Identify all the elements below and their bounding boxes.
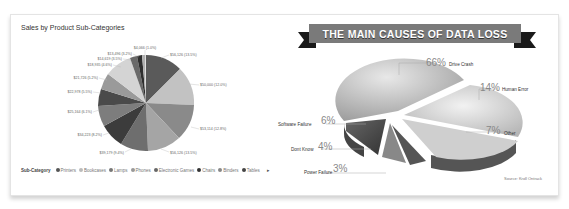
- slice-label: $25,164 (6.1%): [67, 110, 92, 114]
- legend-label: Electronic Games: [159, 168, 195, 173]
- legend-label: Printers: [61, 168, 77, 173]
- slice-label: $18,935 (4.6%): [87, 63, 112, 67]
- pct-power-failure: 3%: [333, 163, 347, 174]
- slice-label: $50,000 (12.0%): [200, 83, 227, 87]
- slice-label: $14,619 (3.5%): [97, 57, 122, 61]
- legend-swatch: [109, 168, 113, 172]
- slice-label: $56,126 (13.5%): [170, 53, 197, 57]
- infographic-title: THE MAIN CAUSES OF DATA LOSS: [309, 24, 521, 43]
- label-software-failure: Software Failure: [278, 122, 311, 127]
- pct-software-failure: 6%: [321, 115, 335, 126]
- legend-label: Bookcases: [84, 168, 106, 173]
- slice-label: $56,126 (13.5%): [170, 151, 197, 155]
- sales-pie-chart[interactable]: $56,126 (13.5%) $50,000 (12.0%) $53,114 …: [11, 15, 286, 165]
- legend-item[interactable]: Electronic Games: [154, 168, 195, 173]
- legend-item[interactable]: Printers: [56, 168, 77, 173]
- legend-label: Phones: [136, 168, 151, 173]
- pct-other: 7%: [486, 125, 500, 136]
- label-drive-crash: Drive Crash: [449, 62, 473, 67]
- legend-item[interactable]: Binders: [218, 168, 238, 173]
- legend-label: Tables: [247, 168, 260, 173]
- legend-item[interactable]: Lamps: [109, 168, 128, 173]
- legend-label: Binders: [223, 168, 238, 173]
- source-credit: Source: Kroll Ontrack: [504, 176, 542, 181]
- slice-label: $53,114 (12.8%): [200, 127, 226, 131]
- dashboard-card: Sales by Product Sub-Categories: [10, 14, 559, 196]
- slice-label: $22,978 (5.5%): [67, 90, 92, 94]
- slice-label: $13,496 (3.2%): [107, 52, 132, 56]
- slice-label: $21,726 (5.2%): [73, 76, 98, 80]
- label-other: Other: [504, 131, 516, 136]
- sales-pie-panel: Sales by Product Sub-Categories: [11, 15, 286, 195]
- legend-item[interactable]: Chairs: [197, 168, 215, 173]
- slice-label: $39,179 (9.4%): [99, 151, 124, 155]
- legend-swatch: [242, 168, 246, 172]
- label-dont-know: Dont Know: [291, 147, 313, 152]
- legend-swatch: [218, 168, 222, 172]
- legend-label: Lamps: [114, 168, 128, 173]
- pct-dont-know: 4%: [318, 141, 332, 152]
- chart-legend: Sub-Category Printers Bookcases Lamps Ph…: [21, 167, 270, 173]
- legend-swatch: [56, 168, 60, 172]
- legend-swatch: [154, 168, 158, 172]
- legend-item[interactable]: Phones: [131, 168, 151, 173]
- pct-drive-crash: 66%: [426, 57, 446, 68]
- legend-swatch: [131, 168, 135, 172]
- legend-label: Chairs: [202, 168, 215, 173]
- slice-label: $4,066 (1.0%): [134, 46, 157, 50]
- legend-next-arrow-icon[interactable]: ▸: [267, 167, 270, 173]
- label-human-error: Human Error: [502, 87, 528, 92]
- legend-swatch: [197, 168, 201, 172]
- slice-label: $34,223 (8.2%): [77, 133, 102, 137]
- legend-item[interactable]: Bookcases: [79, 168, 106, 173]
- legend-item[interactable]: Tables: [242, 168, 260, 173]
- label-power-failure: Power Failure: [304, 170, 332, 175]
- legend-swatch: [79, 168, 83, 172]
- pct-human-error: 14%: [480, 82, 500, 93]
- data-loss-infographic: THE MAIN CAUSES OF DATA LOSS: [286, 15, 558, 195]
- slice-software-failure[interactable]: [346, 119, 386, 155]
- legend-title: Sub-Category: [21, 168, 51, 173]
